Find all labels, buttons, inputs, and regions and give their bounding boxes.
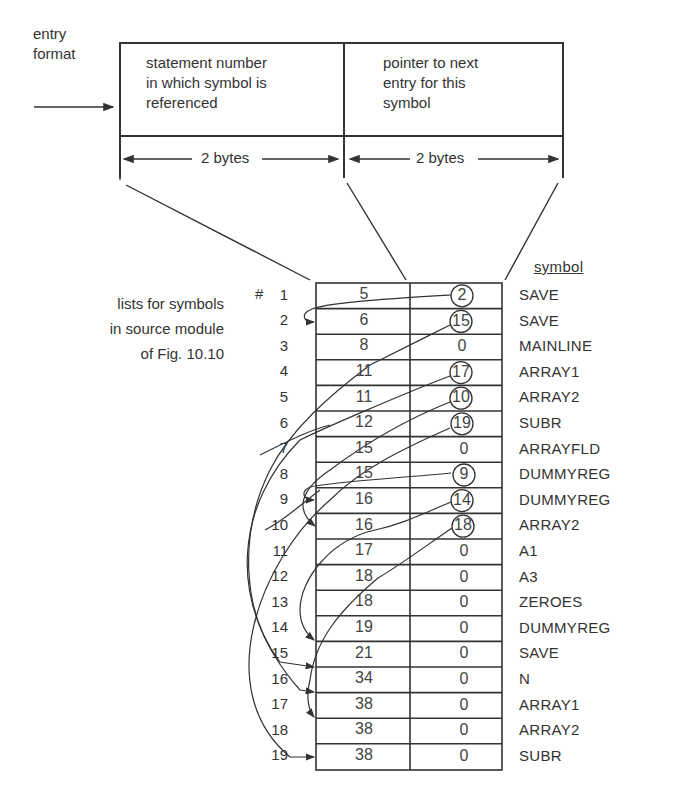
statement-cell: 8: [336, 336, 392, 354]
symbol-name: ARRAY1: [519, 696, 580, 713]
row-index: 3: [248, 337, 288, 354]
row-index: 5: [248, 388, 288, 405]
symbol-name: ZEROES: [519, 593, 582, 610]
row-index: 15: [248, 644, 288, 661]
pointer-cell: 0: [448, 593, 480, 611]
statement-cell: 17: [336, 541, 392, 559]
pointer-cell: 18: [447, 516, 479, 534]
symbol-name: DUMMYREG: [519, 465, 611, 482]
pointer-cell: 0: [448, 696, 480, 714]
pointer-cell: 2: [446, 286, 478, 304]
row-index: 9: [248, 490, 288, 507]
row-index: 1: [248, 286, 288, 303]
row-index: 14: [248, 618, 288, 635]
statement-cell: 11: [336, 388, 392, 406]
symbol-name: SAVE: [519, 312, 559, 329]
row-index: 6: [248, 414, 288, 431]
pointer-cell: 15: [445, 312, 477, 330]
pointer-cell: 0: [448, 568, 480, 586]
statement-cell: 16: [336, 516, 392, 534]
row-index: 7: [248, 439, 288, 456]
symbol-name: A3: [519, 568, 538, 585]
statement-cell: 15: [336, 464, 392, 482]
symbol-name: ARRAY2: [519, 516, 580, 533]
statement-cell: 21: [336, 644, 392, 662]
statement-cell: 6: [336, 311, 392, 329]
symbol-name: ARRAY2: [519, 388, 580, 405]
row-index: 10: [248, 516, 288, 533]
statement-cell: 12: [336, 413, 392, 431]
pointer-cell: 0: [448, 542, 480, 560]
pointer-cell: 0: [448, 644, 480, 662]
symbol-name: SAVE: [519, 286, 559, 303]
statement-cell: 18: [336, 592, 392, 610]
symbol-name: ARRAYFLD: [519, 440, 600, 457]
row-index: 19: [248, 746, 288, 763]
symbol-name: DUMMYREG: [519, 491, 611, 508]
symbol-name: ARRAY2: [519, 721, 580, 738]
row-index: 8: [248, 465, 288, 482]
pointer-cell: 17: [445, 363, 477, 381]
statement-cell: 34: [336, 669, 392, 687]
statement-cell: 38: [336, 746, 392, 764]
pointer-cell: 9: [448, 465, 480, 483]
symbol-name: SUBR: [519, 747, 562, 764]
pointer-cell: 0: [448, 670, 480, 688]
row-index: 2: [248, 311, 288, 328]
symbol-name: DUMMYREG: [519, 619, 611, 636]
statement-cell: 38: [336, 695, 392, 713]
pointer-cell: 0: [448, 747, 480, 765]
statement-cell: 15: [336, 439, 392, 457]
symbol-name: A1: [519, 542, 538, 559]
pointer-cell: 0: [448, 721, 480, 739]
row-index: 16: [248, 670, 288, 687]
pointer-cell: 0: [446, 337, 478, 355]
symbol-name: SAVE: [519, 644, 559, 661]
row-index: 18: [248, 721, 288, 738]
statement-cell: 19: [336, 618, 392, 636]
pointer-cell: 0: [448, 619, 480, 637]
row-index: 12: [248, 567, 288, 584]
statement-cell: 38: [336, 720, 392, 738]
statement-cell: 11: [336, 362, 392, 380]
pointer-cell: 19: [446, 414, 478, 432]
statement-cell: 5: [336, 285, 392, 303]
symbol-name: SUBR: [519, 414, 562, 431]
pointer-cell: 14: [446, 491, 478, 509]
row-index: 4: [248, 362, 288, 379]
symbol-name: ARRAY1: [519, 363, 580, 380]
pointer-cell: 10: [445, 388, 477, 406]
statement-cell: 18: [336, 567, 392, 585]
row-index: 17: [248, 695, 288, 712]
statement-cell: 16: [336, 490, 392, 508]
row-index: 13: [248, 593, 288, 610]
symbol-name: MAINLINE: [519, 337, 592, 354]
pointer-cell: 0: [448, 440, 480, 458]
symbol-name: N: [519, 670, 530, 687]
row-index: 11: [248, 542, 288, 559]
